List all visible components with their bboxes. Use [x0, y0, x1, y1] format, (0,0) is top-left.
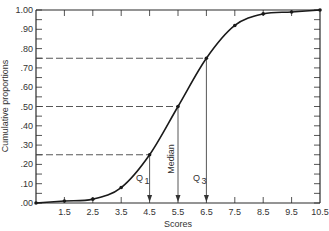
data-point — [290, 10, 294, 14]
y-tick-label: 1.00 — [15, 5, 33, 15]
arrowhead-icon — [176, 195, 181, 202]
data-point — [205, 56, 209, 60]
q3-label: Q — [193, 173, 200, 183]
median-label: Median — [166, 144, 176, 174]
ogive-chart: .00.10.20.30.40.50.60.70.80.901.00 1.52.… — [0, 0, 329, 231]
y-tick-label: .20 — [20, 159, 33, 169]
x-tick-label: 3.5 — [115, 207, 128, 217]
y-axis-title: Cumulative proportions — [0, 59, 10, 152]
data-point — [318, 8, 322, 12]
arrowhead-icon — [204, 195, 209, 202]
y-tick-label: .50 — [20, 102, 33, 112]
y-tick-label: .10 — [20, 179, 33, 189]
x-axis-title: Scores — [164, 219, 193, 229]
data-point — [233, 24, 237, 28]
y-tick-label: .40 — [20, 121, 33, 131]
q1-subscript: 1 — [145, 176, 150, 186]
data-point — [176, 105, 180, 109]
x-tick-label: 9.5 — [285, 207, 298, 217]
arrowhead-icon — [147, 195, 152, 202]
x-tick-label: 8.5 — [257, 207, 270, 217]
y-tick-label: .60 — [20, 82, 33, 92]
x-tick-label: 1.5 — [58, 207, 71, 217]
y-tick-label: .30 — [20, 140, 33, 150]
data-point — [261, 12, 265, 16]
data-point — [34, 201, 38, 205]
x-tick-label: 7.5 — [229, 207, 242, 217]
q1-label: Q — [136, 173, 143, 183]
x-tick-label: 5.5 — [172, 207, 185, 217]
quartile-reference-lines — [36, 58, 209, 202]
annotations: Q1MedianQ3 — [136, 144, 206, 186]
x-tick-label: 6.5 — [200, 207, 213, 217]
x-axis: 1.52.53.54.55.56.57.58.59.510.5 — [58, 10, 329, 217]
q3-subscript: 3 — [201, 176, 206, 186]
x-tick-label: 4.5 — [143, 207, 156, 217]
y-tick-label: .70 — [20, 63, 33, 73]
y-tick-label: .80 — [20, 44, 33, 54]
data-point — [91, 197, 95, 201]
x-tick-label: 2.5 — [87, 207, 100, 217]
data-point — [148, 153, 152, 157]
y-tick-label: .00 — [20, 198, 33, 208]
data-point — [63, 199, 67, 203]
data-point — [119, 186, 123, 190]
x-tick-label: 10.5 — [311, 207, 329, 217]
y-tick-label: .90 — [20, 24, 33, 34]
